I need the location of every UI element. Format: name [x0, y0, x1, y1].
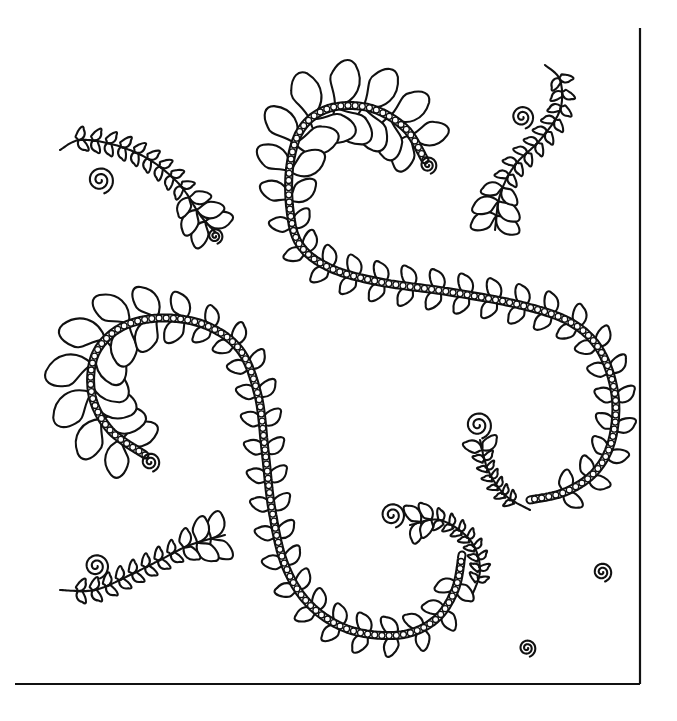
- pearl-bead: [528, 305, 534, 311]
- pearl-bead: [324, 106, 330, 112]
- pearl-bead: [281, 560, 287, 566]
- pearl-bead: [109, 331, 115, 337]
- pearl-bead: [301, 123, 307, 129]
- pearl-bead: [324, 616, 330, 622]
- pearl-bead: [458, 559, 464, 565]
- pearl-bead: [291, 142, 297, 148]
- pearl-bead: [546, 494, 552, 500]
- pearl-bead: [294, 586, 300, 592]
- pearl-bead: [553, 492, 559, 498]
- pearl-bead: [574, 323, 580, 329]
- pearl-bead: [124, 441, 130, 447]
- pearl-bead: [493, 297, 499, 303]
- pearl-bead: [613, 405, 619, 411]
- pearl-bead: [253, 383, 259, 389]
- pearl-bead: [359, 103, 365, 109]
- pearl-bead: [248, 369, 254, 375]
- pearl-bead: [286, 185, 292, 191]
- pearl-bead: [457, 566, 463, 572]
- feather-quilting-artwork: [0, 0, 677, 721]
- pearl-bead: [407, 630, 413, 636]
- pearl-bead: [272, 525, 278, 531]
- pearl-bead: [450, 290, 456, 296]
- pearl-bead: [311, 256, 317, 262]
- pearl-bead: [612, 419, 618, 425]
- pearl-bead: [192, 319, 198, 325]
- pearl-bead: [287, 573, 293, 579]
- pearl-bead: [471, 293, 477, 299]
- pearl-bead: [121, 323, 127, 329]
- pearl-bead: [263, 454, 269, 460]
- pearl-bead: [454, 580, 460, 586]
- pearl-bead: [452, 587, 458, 593]
- pearl-bead: [306, 252, 312, 258]
- pearl-bead: [442, 606, 448, 612]
- pearl-bead: [261, 432, 267, 438]
- pearl-bead: [311, 113, 317, 119]
- spiral-right-mid: [468, 414, 491, 439]
- pearl-bead: [287, 206, 293, 212]
- pearl-bead: [446, 600, 452, 606]
- pearl-bead: [98, 415, 104, 421]
- pearl-bead: [230, 339, 236, 345]
- pearl-bead: [358, 275, 364, 281]
- top-left-feather: [60, 127, 233, 249]
- pearl-bead: [92, 403, 98, 409]
- pearl-bead: [303, 597, 309, 603]
- pearl-bead: [609, 376, 615, 382]
- pearl-bead: [258, 411, 264, 417]
- pearl-bead: [579, 480, 585, 486]
- pearl-bead: [438, 611, 444, 617]
- pearl-bead: [88, 374, 94, 380]
- pearl-bead: [163, 315, 169, 321]
- pearl-bead: [433, 617, 439, 623]
- pearl-bead: [260, 425, 266, 431]
- pearl-bead: [313, 607, 319, 613]
- pearl-bead: [392, 117, 398, 123]
- pearl-bead: [345, 103, 351, 109]
- pearl-bead: [608, 440, 614, 446]
- pearl-bead: [259, 418, 265, 424]
- pearl-bead: [373, 107, 379, 113]
- spiral-left-plume-tip: [143, 454, 159, 472]
- pearl-bead: [352, 103, 358, 109]
- pearl-bead: [427, 621, 433, 627]
- pearl-bead: [415, 144, 421, 150]
- pearl-bead: [443, 288, 449, 294]
- pearl-bead: [599, 350, 605, 356]
- pearl-bead: [560, 490, 566, 496]
- pearl-bead: [611, 426, 617, 432]
- pearl-bead: [256, 397, 262, 403]
- pearl-bead: [568, 320, 574, 326]
- pearl-bead: [286, 192, 292, 198]
- pearl-bead: [351, 628, 357, 634]
- spiral-bottom-center: [383, 504, 404, 527]
- spiral-bottom-lone: [521, 641, 536, 657]
- pearl-bead: [88, 367, 94, 373]
- pearl-bead: [595, 343, 601, 349]
- pearl-bead: [246, 362, 252, 368]
- pearl-bead: [293, 234, 299, 240]
- pearl-bead: [115, 326, 121, 332]
- pearl-bead: [288, 213, 294, 219]
- pearl-bead: [289, 220, 295, 226]
- upper-s-plume: [257, 60, 636, 508]
- pearl-bead: [393, 632, 399, 638]
- pearl-bead: [269, 504, 275, 510]
- top-right-feather: [471, 65, 575, 235]
- pearl-bead: [267, 497, 273, 503]
- pearl-bead: [602, 356, 608, 362]
- pearl-bead: [344, 626, 350, 632]
- pearl-bead: [403, 126, 409, 132]
- pearl-bead: [344, 271, 350, 277]
- pearl-bead: [535, 307, 541, 313]
- pearl-bead: [298, 592, 304, 598]
- pearl-bead: [421, 625, 427, 631]
- pearl-bead: [288, 156, 294, 162]
- pearl-bead: [429, 286, 435, 292]
- pearl-bead: [337, 623, 343, 629]
- pearl-bead: [284, 567, 290, 573]
- pearl-bead: [266, 483, 272, 489]
- pearl-bead: [296, 241, 302, 247]
- pearl-bead: [398, 122, 404, 128]
